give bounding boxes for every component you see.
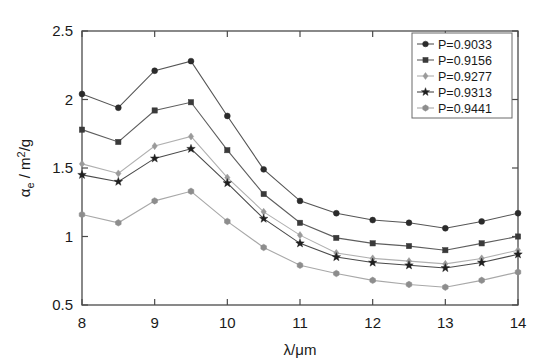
data-point (297, 232, 302, 239)
legend-label: P=0.9313 (438, 86, 492, 100)
data-point (261, 191, 266, 196)
y-tick-label: 0.5 (52, 296, 73, 313)
data-point (334, 235, 339, 240)
data-point (79, 160, 84, 167)
data-point (333, 210, 339, 216)
data-point (406, 281, 412, 288)
series-line (82, 149, 518, 268)
series-2 (79, 100, 520, 253)
data-point (114, 177, 123, 185)
data-point (297, 220, 302, 225)
data-point (370, 217, 376, 223)
data-point (116, 139, 121, 144)
legend-label: P=0.9441 (438, 102, 492, 116)
legend-marker (423, 41, 429, 47)
x-tick-label: 13 (437, 314, 454, 331)
y-axis-symbol: α (16, 188, 33, 197)
data-point (368, 258, 377, 266)
data-point (443, 248, 448, 253)
data-point (406, 220, 412, 226)
legend: P=0.9033P=0.9156P=0.9277P=0.9313P=0.9441 (412, 33, 512, 118)
x-tick-label: 14 (510, 314, 527, 331)
data-point (334, 270, 340, 277)
y-tick-label: 1 (65, 228, 73, 245)
data-point (479, 241, 484, 246)
data-point (261, 166, 267, 172)
data-point (441, 264, 450, 272)
data-point (79, 127, 84, 132)
series-4 (78, 144, 523, 271)
data-point (152, 143, 157, 150)
data-point (515, 210, 521, 216)
x-tick-label: 11 (292, 314, 308, 331)
data-point (188, 188, 194, 195)
x-tick-label: 8 (78, 314, 86, 331)
data-point (188, 58, 194, 64)
data-point (515, 234, 520, 239)
data-point (152, 108, 157, 113)
data-point (405, 261, 414, 269)
legend-label: P=0.9033 (438, 38, 492, 52)
data-point (296, 239, 305, 247)
data-point (479, 277, 485, 284)
y-axis-unit-tail: /g (16, 139, 33, 152)
x-tick-label: 12 (364, 314, 381, 331)
y-tick-label: 1.5 (52, 159, 73, 176)
data-point (152, 68, 158, 74)
y-axis-title-text: αe / m2/g (15, 139, 36, 197)
x-tick-labels: 891011121314 (78, 314, 527, 331)
x-tick-label: 10 (219, 314, 236, 331)
data-point (152, 198, 158, 205)
data-point (115, 105, 121, 111)
legend-label: P=0.9156 (438, 54, 492, 68)
y-tick-labels: 0.511.522.5 (52, 22, 73, 313)
legend-label: P=0.9277 (438, 70, 492, 84)
data-point (224, 113, 230, 119)
data-point (406, 243, 411, 248)
legend-marker (423, 57, 428, 62)
x-tick-label: 9 (150, 314, 158, 331)
data-point (479, 218, 485, 224)
data-point (442, 225, 448, 231)
data-point (515, 269, 521, 276)
y-tick-label: 2 (65, 91, 73, 108)
data-point (261, 244, 267, 251)
data-point (225, 218, 231, 225)
data-point (443, 284, 449, 291)
data-point (188, 100, 193, 105)
data-point (79, 211, 85, 218)
data-point (79, 91, 85, 97)
extinction-coefficient-line-chart: 8910111213140.511.522.5λ/μmαe / m2/gP=0.… (0, 0, 551, 361)
y-axis-unit: / m (16, 157, 33, 182)
data-point (297, 262, 303, 269)
series-line (82, 102, 518, 250)
y-tick-label: 2.5 (52, 22, 73, 39)
data-point (116, 220, 122, 227)
data-point (297, 198, 303, 204)
chart-figure: 8910111213140.511.522.5λ/μmαe / m2/gP=0.… (0, 0, 551, 361)
legend-marker (423, 105, 428, 111)
data-point (370, 241, 375, 246)
data-point (370, 277, 376, 284)
x-axis-title: λ/μm (284, 341, 317, 358)
y-axis-title: αe / m2/g (15, 139, 36, 197)
data-point (116, 170, 121, 177)
data-point (225, 148, 230, 153)
